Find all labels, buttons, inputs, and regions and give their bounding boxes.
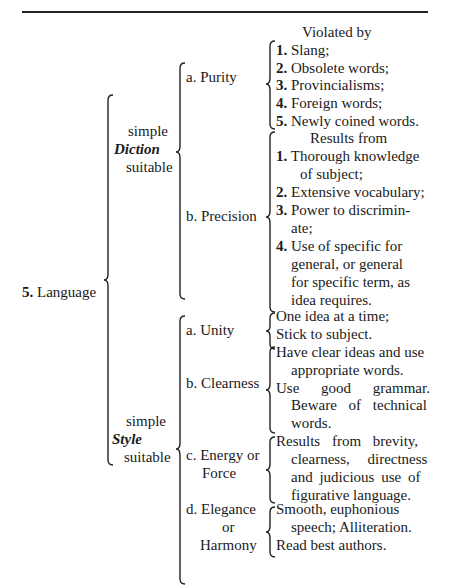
- top-rule: [22, 11, 428, 13]
- purity-label: a. Purity: [186, 68, 237, 86]
- clearness-line: appropriate words.: [291, 361, 403, 379]
- purity-header: Violated by: [302, 23, 372, 41]
- elegance-line: Read best authors.: [276, 536, 386, 554]
- brace-energy: [266, 436, 276, 504]
- precision-entry: 2. Extensive vocabulary;: [276, 183, 425, 201]
- unity-line: Stick to subject.: [276, 325, 372, 343]
- unity-label: a. Unity: [186, 321, 234, 339]
- energy-label-cont: Force: [202, 464, 236, 482]
- precision-entry: 4. Use of specific for: [276, 237, 402, 255]
- energy-line: and judicious use of: [291, 468, 420, 486]
- brace-clearness: [266, 346, 276, 434]
- brace-diction: [176, 62, 186, 300]
- style-label-suitable: suitable: [124, 448, 171, 466]
- energy-label: c. Energy or: [186, 446, 259, 464]
- energy-line: clearness, directness: [291, 450, 427, 468]
- precision-label: b. Precision: [186, 207, 257, 225]
- clearness-line: words.: [291, 414, 331, 432]
- topic-label: Language: [37, 284, 96, 300]
- brace-style: [176, 315, 186, 585]
- precision-entry-cont: for specific term, as: [291, 273, 410, 291]
- elegance-label-or: or: [222, 518, 235, 536]
- brace-elegance: [266, 506, 276, 558]
- brace-purity: [266, 40, 276, 130]
- topic-number: 5.: [22, 284, 33, 300]
- precision-entry-cont: general, or general: [291, 255, 403, 273]
- diction-label-diction: Diction: [114, 140, 160, 158]
- precision-entry-cont: ate;: [291, 219, 313, 237]
- clearness-line: Beware of technical: [291, 396, 427, 414]
- elegance-line: Smooth, euphonious: [276, 500, 399, 518]
- style-label-simple: simple: [126, 412, 166, 430]
- precision-entry: 1. Thorough knowledge: [276, 147, 419, 165]
- purity-entry: 3. Provincialisms;: [276, 76, 384, 94]
- brace-language: [104, 94, 114, 466]
- clearness-label: b. Clearness: [186, 374, 259, 392]
- precision-entry: 3. Power to discrimin-: [276, 201, 410, 219]
- energy-line: Results from brevity,: [276, 432, 418, 450]
- elegance-line: speech; Alliteration.: [291, 518, 412, 536]
- brace-unity: [266, 312, 276, 350]
- purity-entry: 5. Newly coined words.: [276, 112, 419, 130]
- precision-header: Results from: [310, 129, 387, 147]
- clearness-line: Have clear ideas and use: [276, 343, 424, 361]
- diction-label-suitable: suitable: [126, 158, 173, 176]
- style-label-style: Style: [112, 430, 142, 448]
- purity-entry: 4. Foreign words;: [276, 94, 382, 112]
- elegance-label: d. Elegance: [186, 500, 256, 518]
- purity-entry: 2. Obsolete words;: [276, 59, 389, 77]
- topic-language: 5. Language: [22, 283, 96, 301]
- clearness-line: Use good grammar.: [276, 379, 428, 397]
- brace-precision: [266, 131, 276, 313]
- precision-entry-cont: of subject;: [300, 165, 363, 183]
- elegance-label-harmony: Harmony: [200, 536, 257, 554]
- unity-line: One idea at a time;: [276, 307, 389, 325]
- purity-entry: 1. Slang;: [276, 41, 329, 59]
- diction-label-simple: simple: [128, 122, 168, 140]
